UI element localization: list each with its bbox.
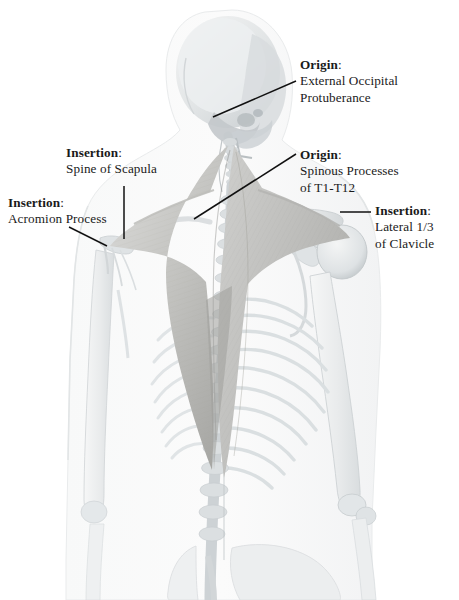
label-origin-external-occipital-protuberance: Origin: External Occipital Protuberance — [300, 57, 398, 106]
label-line1: Acromion Process — [8, 211, 107, 227]
label-term: Origin — [300, 147, 338, 162]
label-insertion-lateral-clavicle: Insertion: Lateral 1/3 of Clavicle — [375, 203, 434, 252]
label-line1: External Occipital — [300, 73, 398, 89]
label-line2: of T1-T12 — [300, 180, 399, 196]
label-term: Insertion — [8, 195, 60, 210]
label-origin-spinous-processes: Origin: Spinous Processes of T1-T12 — [300, 147, 399, 196]
label-colon: : — [427, 203, 431, 218]
label-colon: : — [338, 147, 342, 162]
label-colon: : — [338, 57, 342, 72]
label-term: Origin — [300, 57, 338, 72]
label-insertion-acromion-process: Insertion: Acromion Process — [8, 195, 107, 228]
label-line1: Lateral 1/3 — [375, 219, 434, 235]
label-colon: : — [118, 145, 122, 160]
label-insertion-spine-of-scapula: Insertion: Spine of Scapula — [66, 145, 157, 178]
label-line2: of Clavicle — [375, 236, 434, 252]
label-line2: Protuberance — [300, 90, 398, 106]
label-term: Insertion — [375, 203, 427, 218]
label-colon: : — [60, 195, 64, 210]
label-term: Insertion — [66, 145, 118, 160]
label-line1: Spinous Processes — [300, 163, 399, 179]
label-line1: Spine of Scapula — [66, 161, 157, 177]
